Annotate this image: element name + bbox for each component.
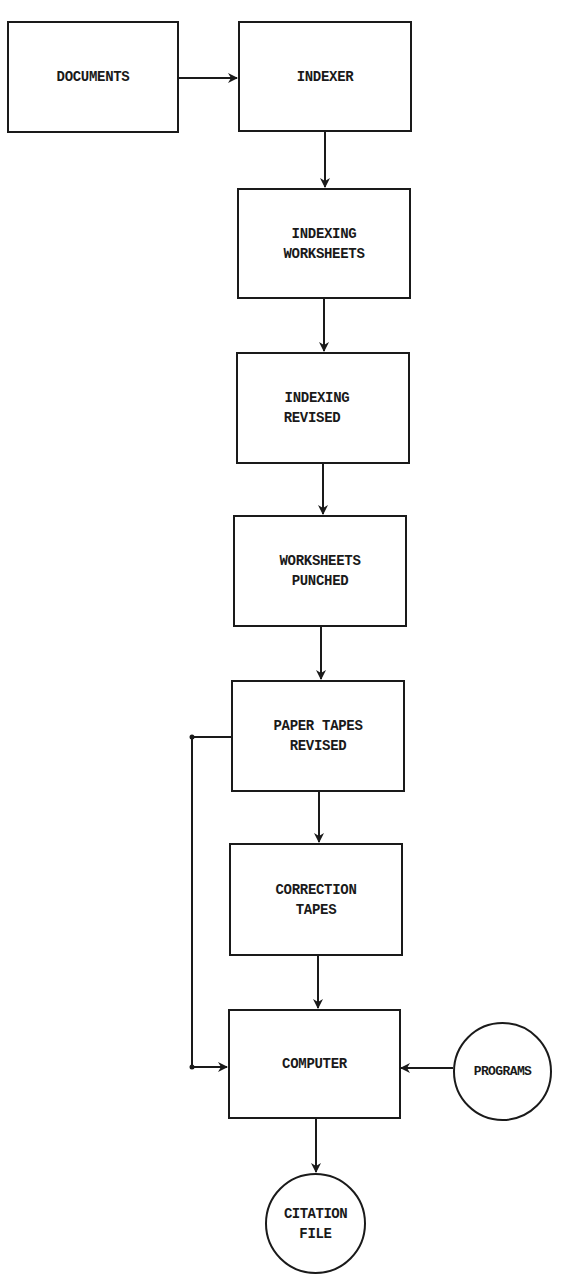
- node-label: REVISED: [290, 736, 347, 756]
- node-label: TAPES: [296, 900, 337, 920]
- node-label: CORRECTION: [275, 880, 356, 900]
- node-label: INDEXING: [292, 224, 357, 244]
- node-citation-file: CITATION FILE: [265, 1173, 366, 1274]
- node-label: CITATION: [284, 1204, 347, 1224]
- node-label: PAPER TAPES: [273, 716, 362, 736]
- node-label: INDEXING: [285, 388, 362, 408]
- node-label: WORKSHEETS: [283, 244, 364, 264]
- node-label: WORKSHEETS: [279, 551, 360, 571]
- node-indexing-worksheets: INDEXING WORKSHEETS: [237, 188, 411, 299]
- node-correction-tapes: CORRECTION TAPES: [229, 843, 403, 956]
- node-label: INDEXER: [297, 67, 354, 87]
- node-label: REVISED: [284, 408, 363, 428]
- arrow-papertapes-loop-to-computer: [192, 737, 231, 1067]
- node-programs: PROGRAMS: [453, 1022, 552, 1121]
- node-label: COMPUTER: [282, 1054, 347, 1074]
- node-indexer: INDEXER: [238, 21, 412, 132]
- node-label: DOCUMENTS: [57, 67, 130, 87]
- node-label: PROGRAMS: [474, 1062, 532, 1082]
- node-paper-tapes-revised: PAPER TAPES REVISED: [231, 680, 405, 792]
- node-computer: COMPUTER: [228, 1009, 401, 1119]
- node-documents: DOCUMENTS: [7, 21, 179, 133]
- node-label: PUNCHED: [292, 571, 349, 591]
- node-label: FILE: [299, 1224, 331, 1244]
- node-indexing-revised: INDEXING REVISED: [236, 352, 410, 464]
- node-worksheets-punched: WORKSHEETS PUNCHED: [233, 515, 407, 627]
